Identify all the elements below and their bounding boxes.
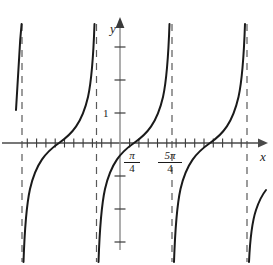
y-axis	[115, 17, 126, 250]
plot-canvas	[0, 0, 273, 265]
x-tick-label-pi-over-4: π 4	[124, 150, 140, 174]
pi-over-4-denominator: 4	[124, 163, 140, 175]
pi-over-4-numerator: π	[124, 150, 140, 162]
y-axis-arrowhead	[116, 17, 125, 28]
five-pi-over-4-numerator: 5π	[158, 150, 182, 162]
curve-branch-5	[249, 190, 266, 262]
y-tick-label-one: 1	[103, 108, 109, 119]
y-axis-label: y	[110, 22, 116, 35]
x-axis-arrowhead	[258, 139, 268, 148]
curve-branch-1	[16, 24, 22, 110]
five-pi-over-4-denominator: 4	[158, 163, 182, 175]
tangent-graph-figure: y x 1 π 4 5π 4	[0, 0, 273, 265]
x-tick-label-5pi-over-4: 5π 4	[158, 150, 182, 174]
x-axis-label: x	[260, 150, 266, 163]
